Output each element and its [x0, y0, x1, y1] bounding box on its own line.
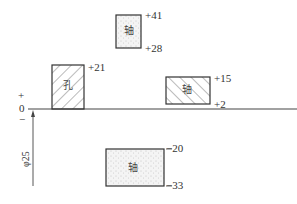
minus-sign: − — [19, 114, 25, 125]
hole-upper-deviation: +21 — [88, 62, 105, 73]
hole-zone-label: 孔 — [63, 81, 73, 91]
shaft-1-upper-deviation: +41 — [145, 10, 162, 21]
plus-sign: + — [18, 90, 24, 101]
shaft-3-lower-deviation: −33 — [166, 180, 183, 191]
tolerance-diagram — [0, 0, 297, 204]
shaft-1-label: 轴 — [124, 26, 134, 36]
shaft-2-label: 轴 — [182, 85, 192, 95]
shaft-3-upper-deviation: −20 — [166, 143, 183, 154]
shaft-2-upper-deviation: +15 — [214, 73, 231, 84]
shaft-3-label: 轴 — [128, 163, 138, 173]
shaft-1-lower-deviation: +28 — [145, 43, 162, 54]
shaft-2-lower-deviation: +2 — [214, 99, 226, 110]
basic-size-label: φ25 — [20, 151, 31, 167]
